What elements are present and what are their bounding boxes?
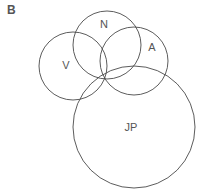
circle-a-label: A xyxy=(148,41,156,53)
circle-n-label: N xyxy=(100,18,108,30)
venn-diagram: V N A JP xyxy=(0,0,204,194)
circle-jp: JP xyxy=(73,66,195,188)
circle-a-shape xyxy=(100,27,168,95)
circle-a: A xyxy=(100,27,168,95)
circle-v-label: V xyxy=(62,59,70,71)
circle-jp-label: JP xyxy=(125,121,138,133)
